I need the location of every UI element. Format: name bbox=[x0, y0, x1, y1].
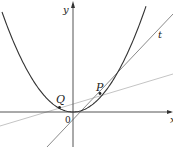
point-q bbox=[58, 106, 61, 109]
y-axis-label: y bbox=[62, 4, 69, 15]
secant-line bbox=[0, 74, 173, 126]
point-p-label: P bbox=[95, 81, 104, 94]
tangent-line-t bbox=[47, 14, 173, 147]
parabola-tangent-diagram: y x 0 P Q t bbox=[0, 0, 173, 147]
origin-label: 0 bbox=[65, 115, 71, 125]
point-q-label: Q bbox=[56, 93, 65, 106]
parabola-curve bbox=[2, 6, 146, 112]
y-axis-arrow-icon bbox=[71, 1, 75, 8]
tangent-label: t bbox=[158, 29, 163, 40]
x-axis-label: x bbox=[170, 114, 173, 125]
diagram-canvas: y x 0 P Q t bbox=[0, 0, 173, 147]
